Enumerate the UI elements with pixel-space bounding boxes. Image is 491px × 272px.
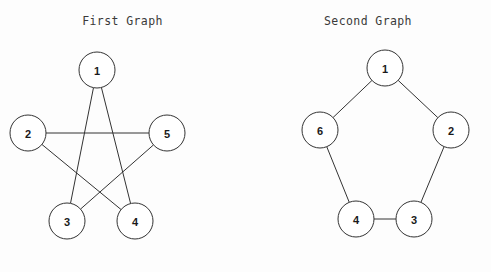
first-graph-nodes: 12534 <box>10 52 185 239</box>
second-graph-panel: Second Graph 12643 <box>245 0 491 272</box>
first-graph-panel: First Graph 12534 <box>0 0 245 272</box>
graph-edge <box>421 147 444 203</box>
graph-edge <box>81 145 154 209</box>
graph-node-3[interactable] <box>396 201 432 237</box>
graph-node-4[interactable] <box>117 203 153 239</box>
graph-node-1[interactable] <box>79 52 115 88</box>
graph-edge <box>327 147 350 203</box>
graph-node-6[interactable] <box>302 112 338 148</box>
first-graph-edges <box>42 87 154 209</box>
second-graph-nodes: 12643 <box>302 50 469 237</box>
diagram-canvas: First Graph 12534 Second Graph 12643 <box>0 0 491 272</box>
graph-node-1[interactable] <box>367 50 403 86</box>
graph-edge <box>42 144 121 209</box>
graph-edge <box>101 87 130 203</box>
second-graph-svg: 12643 <box>245 0 491 272</box>
graph-node-4[interactable] <box>338 201 374 237</box>
graph-node-2[interactable] <box>10 115 46 151</box>
graph-node-5[interactable] <box>149 115 185 151</box>
first-graph-svg: 12534 <box>0 0 245 272</box>
second-graph-edges <box>327 80 444 219</box>
graph-edge <box>71 88 94 204</box>
graph-node-3[interactable] <box>49 203 85 239</box>
graph-edge <box>398 80 438 117</box>
graph-node-2[interactable] <box>433 112 469 148</box>
graph-edge <box>333 80 372 117</box>
